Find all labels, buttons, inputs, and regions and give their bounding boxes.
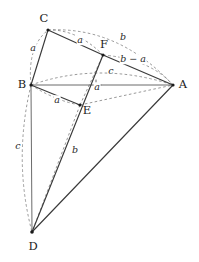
label-a-CF: a (77, 35, 84, 45)
label-a-BC: a (30, 43, 37, 53)
edge-B-C (31, 30, 48, 85)
vertex-dot-F (101, 53, 104, 56)
vertex-label-D: D (28, 241, 37, 253)
edge-D-A (32, 85, 173, 232)
vertex-dot-A (171, 83, 174, 86)
label-c-BA: c (108, 66, 114, 76)
vertex-dot-C (46, 28, 49, 31)
vertex-label-B: B (18, 79, 26, 91)
dashed-arc-group (22, 30, 173, 232)
vertex-label-C: C (40, 13, 49, 25)
arc-B-A (31, 73, 173, 85)
edge-B-D (31, 85, 32, 232)
label-b-CA: b (119, 32, 126, 42)
geometry-figure: A B C D E F a a b b − a c a a c b (0, 0, 199, 262)
vertex-dot-B (29, 83, 32, 86)
solid-edge-group (31, 30, 173, 232)
edge-C-F (48, 30, 103, 55)
label-a-FE: a (94, 82, 101, 92)
label-a-BE: a (54, 95, 61, 105)
vertex-label-F: F (100, 39, 108, 51)
arc-B-D (22, 85, 32, 232)
vertex-dot-E (78, 103, 81, 106)
label-b-ED: b (71, 145, 78, 155)
label-c-BD: c (15, 141, 21, 151)
vertex-label-E: E (83, 105, 91, 117)
dashed-edge-group (32, 55, 173, 232)
label-b-minus-a-FA: b − a (120, 54, 147, 64)
vertex-dot-group (29, 28, 174, 233)
vertex-label-A: A (179, 79, 187, 91)
vertex-dot-D (30, 230, 34, 234)
